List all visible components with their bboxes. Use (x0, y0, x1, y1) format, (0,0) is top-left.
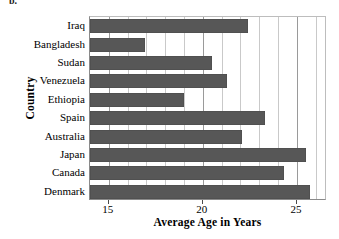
plot-area (89, 16, 326, 200)
y-tick-label-sudan: Sudan (0, 57, 85, 68)
y-tick-label-venezuela: Venezuela (0, 75, 85, 86)
y-tick-label-australia: Australia (0, 131, 85, 142)
bar-ethiopia (90, 93, 184, 107)
bar-row (90, 19, 326, 33)
bar-canada (90, 166, 284, 180)
bar-row (90, 111, 326, 125)
x-tick-label-25: 25 (276, 203, 316, 215)
bar-chart: IraqBangladeshSudanVenezuelaEthiopiaSpai… (0, 0, 339, 239)
x-axis-title: Average Age in Years (89, 216, 326, 228)
y-tick-label-bangladesh: Bangladesh (0, 39, 85, 50)
bar-row (90, 93, 326, 107)
bar-bangladesh (90, 38, 145, 52)
bar-australia (90, 130, 242, 144)
y-tick-label-japan: Japan (0, 149, 85, 160)
bar-japan (90, 148, 306, 162)
y-tick-label-denmark: Denmark (0, 186, 85, 197)
bar-row (90, 38, 326, 52)
bars-container (90, 17, 325, 199)
bar-spain (90, 111, 265, 125)
y-axis-title: Country (24, 58, 36, 138)
bar-sudan (90, 56, 212, 70)
bar-row (90, 130, 326, 144)
bar-row (90, 185, 326, 199)
y-tick-label-spain: Spain (0, 112, 85, 123)
y-tick-label-iraq: Iraq (0, 20, 85, 31)
bar-venezuela (90, 74, 227, 88)
bar-row (90, 166, 326, 180)
x-tick-label-15: 15 (88, 203, 128, 215)
bar-iraq (90, 19, 248, 33)
bar-row (90, 148, 326, 162)
y-tick-label-canada: Canada (0, 167, 85, 178)
y-tick-label-ethiopia: Ethiopia (0, 94, 85, 105)
bar-denmark (90, 185, 310, 199)
bar-row (90, 74, 326, 88)
x-tick-label-20: 20 (182, 203, 222, 215)
bar-row (90, 56, 326, 70)
